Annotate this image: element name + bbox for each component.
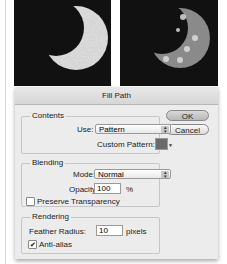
fill-path-dialog: Fill Path OK Cancel Contents Use: Patter…: [15, 87, 218, 259]
feather-radius-label: Feather Radius:: [29, 227, 86, 236]
opacity-unit: %: [126, 185, 133, 194]
use-label: Use:: [77, 125, 93, 134]
contents-group: Contents Use: Pattern ▴▾ Custom Pattern:…: [21, 116, 160, 154]
pattern-swatch[interactable]: [155, 138, 168, 150]
anti-alias-checkbox[interactable]: ✔: [28, 240, 37, 249]
preserve-transparency-label: Preserve Transparency: [37, 197, 120, 206]
contents-title: Contents: [30, 111, 66, 120]
mode-value: Normal: [98, 170, 124, 179]
rendering-group: Rendering Feather Radius: 10 pixels ✔ An…: [21, 217, 160, 254]
ok-button[interactable]: OK: [166, 110, 209, 121]
moon-image-before: [14, 0, 111, 86]
use-select[interactable]: Pattern ▴▾: [95, 124, 171, 134]
anti-alias-label: Anti-alias: [39, 240, 72, 249]
chevron-down-icon[interactable]: ▼: [168, 142, 173, 148]
use-value: Pattern: [99, 125, 125, 134]
preserve-transparency-checkbox[interactable]: [26, 197, 35, 206]
page-border: [5, 0, 6, 264]
opacity-input[interactable]: 100: [94, 183, 121, 194]
updown-arrows-icon: ▴▾: [161, 126, 169, 133]
rendering-title: Rendering: [30, 212, 71, 221]
mode-label: Mode:: [73, 170, 95, 179]
feather-radius-input[interactable]: 10: [96, 225, 123, 236]
blending-group: Blending Mode: Normal ▴▾ Opacity: 100 % …: [21, 163, 160, 207]
feather-unit: pixels: [126, 227, 146, 236]
updown-arrows-icon: ▴▾: [161, 171, 169, 178]
moon-image-after: [120, 0, 218, 86]
mode-select[interactable]: Normal ▴▾: [94, 169, 171, 179]
dialog-title: Fill Path: [15, 87, 218, 105]
checkmark-icon: ✔: [30, 241, 36, 248]
blending-title: Blending: [30, 158, 65, 167]
cancel-button[interactable]: Cancel: [166, 124, 209, 135]
custom-pattern-label: Custom Pattern:: [97, 140, 155, 149]
